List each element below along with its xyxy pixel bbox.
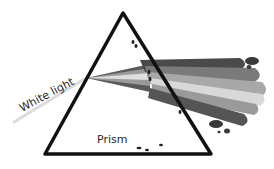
- white-light-label: White light: [17, 75, 77, 115]
- prism-diagram: White light Prism: [0, 0, 274, 169]
- prism-label: Prism: [97, 133, 127, 146]
- internal-beam: [86, 64, 150, 92]
